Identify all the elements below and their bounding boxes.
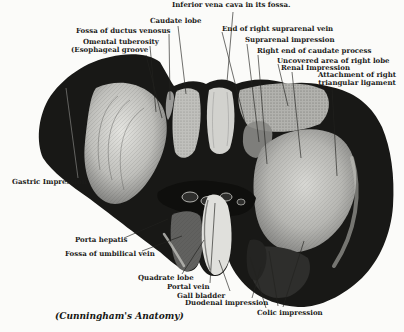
label-fossa-ductus-venosus: Fossa of ductus venosus — [76, 27, 170, 34]
vessel-ring-1 — [182, 192, 198, 202]
ivc-fossa-shape — [207, 88, 235, 154]
vessel-ring-4 — [237, 199, 245, 205]
label-duodenal-impression: Duodenal impression — [185, 299, 268, 306]
anatomy-figure-page: Inferior vena cava in its fossa. Caudate… — [0, 0, 404, 332]
label-omental-tuberosity: Omental tuberosity — [83, 38, 159, 45]
label-porta-hepatis: Porta hepatis — [75, 236, 127, 243]
label-attachment-right-triangular-ligament: Attachment of right triangular ligament — [318, 71, 396, 86]
label-gastric-impression: Gastric Impression — [12, 178, 87, 185]
label-end-right-suprarenal-vein: End of right suprarenal vein — [222, 25, 333, 32]
figure-caption: (Cunningham's Anatomy) — [55, 311, 184, 321]
label-suprarenal-impression: Suprarenal impression — [245, 36, 335, 43]
label-right-end-caudate-process: Right end of caudate process — [257, 47, 371, 54]
label-quadrate-lobe: Quadrate lobe — [138, 274, 194, 281]
label-fossa-umbilical-vein: Fossa of umbilical vein — [65, 250, 155, 257]
label-inferior-vena-cava: Inferior vena cava in its fossa. — [172, 1, 290, 8]
label-colic-impression: Colic impression — [257, 309, 323, 316]
label-esophageal-groove: (Esophageal groove — [71, 46, 148, 53]
label-caudate-lobe: Caudate lobe — [150, 17, 201, 24]
label-portal-vein: Portal vein — [167, 283, 210, 290]
